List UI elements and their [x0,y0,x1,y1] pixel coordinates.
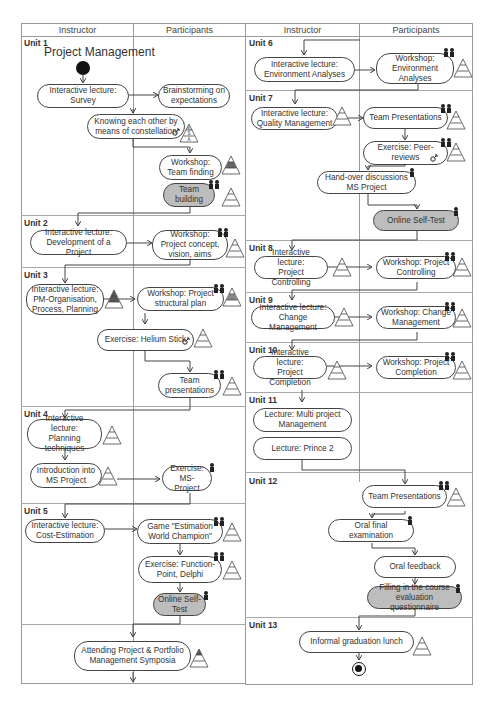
unit-label: Unit 11 [249,395,277,405]
ksa-pyramid-icon [327,360,347,380]
activity-team-presentations[interactable]: Team presentations [158,373,221,398]
ksa-pyramid-icon [222,522,242,542]
diagram-title: Project Management [44,45,155,59]
ksa-pyramid-icon [193,328,213,348]
ksa-pyramid-icon [221,155,241,175]
activity-environment-workshop[interactable]: Workshop: Environment Analyses [376,53,454,84]
activity-course-evaluation[interactable]: Filling in the course evaluation questio… [367,586,462,609]
svg-text:S: S [187,131,190,136]
activity-team-finding[interactable]: Workshop: Team finding [159,155,222,180]
male-symbol-icon [430,154,438,162]
unit-label: Unit 2 [24,218,48,228]
ksa-pyramid-icon [222,287,242,307]
ksa-pyramid-icon [102,425,122,445]
activity-function-point[interactable]: Exercise: Function- Point, Delphi [138,556,222,583]
ksa-pyramid-icon [98,466,118,486]
left-header-instructor: Instructor [21,23,134,37]
activity-completion-lecture[interactable]: Interactive lecture: Project Completion [253,356,327,379]
unit-separator [245,292,473,293]
person-icon [407,516,413,525]
group-icon [213,517,225,526]
activity-constellation[interactable]: Knowing each other by means of constella… [87,114,185,139]
male-symbol-icon [182,337,190,345]
activity-handover-discussions[interactable]: Hand-over discussions MS Project [317,171,416,194]
person-icon [409,168,415,177]
activity-team-presentations-u12[interactable]: Team Presentations [362,485,447,508]
unit-separator [245,90,473,91]
ksa-pyramid-icon [453,58,473,78]
ksa-pyramid-icon [446,487,466,507]
group-icon [444,352,456,361]
activity-ms-project-exercise[interactable]: Exercise: MS-Project [162,466,212,491]
unit-separator [245,240,473,241]
group-icon [217,228,229,237]
unit-label: Unit 7 [249,93,273,103]
ksa-pyramid-icon [222,376,242,396]
activity-online-self-test[interactable]: Online Self- Test [153,593,206,616]
end-node [352,662,366,676]
activity-change-lecture[interactable]: Interactive lecture: Change Management [251,306,335,329]
start-node [76,61,90,75]
ksa-pyramid-icon [452,360,472,380]
activity-planning-techniques[interactable]: Interactive lecture: Planning techniques [27,419,102,449]
ksa-pyramid-icon [452,308,472,328]
activity-team-presentations-u7[interactable]: Team Presentations [363,107,448,129]
right-header-instructor: Instructor [245,23,360,37]
activity-multi-project-lecture[interactable]: Lecture: Multi project Management [253,408,352,432]
activity-controlling-lecture[interactable]: Interactive lecture: Project Controlling [254,256,328,279]
unit-separator [245,342,473,343]
unit-label: Unit 3 [24,270,48,280]
activity-pm-organisation[interactable]: Interactive lecture: PM-Organisation, Pr… [26,284,104,315]
person-icon [203,591,209,600]
unit-label: Unit 6 [249,38,273,48]
ksa-pyramid-icon [332,106,352,126]
unit-separator [21,215,246,216]
group-icon [213,370,225,379]
activity-development-lecture[interactable]: Interactive lecture: Development of a Pr… [30,230,127,255]
ksa-pyramid-icon [189,648,209,668]
activity-brainstorming[interactable]: Brainstorming on expectations [158,84,230,108]
ksa-pyramid-icon [332,257,352,277]
group-icon [444,252,456,261]
ksa-pyramid-icon [221,187,241,207]
unit-separator [245,617,473,618]
activity-graduation-lunch[interactable]: Informal graduation lunch [299,631,414,653]
ksa-pyramid-icon: KSA [179,123,199,143]
group-icon [213,284,225,293]
group-icon [440,138,452,147]
activity-quality-lecture[interactable]: Interactive lecture: Quality Management [251,107,338,130]
group-icon [444,302,456,311]
group-icon [443,48,455,57]
person-icon [455,584,461,593]
unit-separator [21,624,246,625]
right-header-participants: Participants [359,23,473,37]
activity-estimation-game[interactable]: Game "Estimation World Champion" [137,519,223,544]
ksa-pyramid-icon [104,289,124,309]
unit-separator [21,406,246,407]
activity-structural-plan[interactable]: Workshop: Project structural plan [137,287,224,311]
activity-survey-lecture[interactable]: Interactive lecture: Survey [37,84,129,108]
activity-helium-stick[interactable]: Exercise: Helium Stick [97,329,194,351]
male-symbol-icon [172,128,180,136]
ksa-pyramid-icon [222,560,242,580]
activity-environment-lecture[interactable]: Interactive lecture: Environment Analyse… [254,57,355,82]
activity-prince2-lecture[interactable]: Lecture: Prince 2 [253,437,352,460]
activity-cost-estimation[interactable]: Interactive lecture: Cost-Estimation [25,519,105,543]
svg-text:A: A [187,137,190,142]
unit-separator [21,503,246,504]
group-icon [438,481,450,490]
activity-ms-project-intro[interactable]: Introduction into MS Project [30,463,102,488]
right-lane-divider [359,23,360,482]
activity-symposia[interactable]: Attending Project & Portfolio Management… [74,641,191,671]
ksa-pyramid-icon [334,307,354,327]
ksa-pyramid-icon [446,110,466,130]
unit-separator [245,392,473,393]
activity-oral-feedback[interactable]: Oral feedback [374,556,456,578]
person-icon [453,207,459,216]
activity-oral-exam[interactable]: Oral final examination [328,519,414,542]
ksa-pyramid-icon [412,636,432,656]
left-header-participants: Participants [133,23,246,37]
activity-online-self-test-u7[interactable]: Online Self-Test [373,210,459,231]
group-icon [440,104,452,113]
unit-label: Unit 13 [249,620,277,630]
